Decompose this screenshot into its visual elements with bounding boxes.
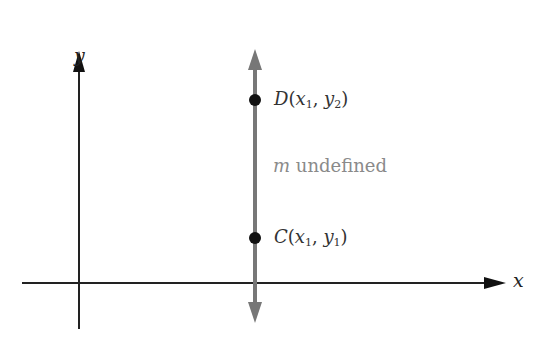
- point-c-label: C(x1, y1): [274, 228, 348, 248]
- x-axis: [22, 277, 506, 289]
- slope-text: undefined: [290, 155, 387, 176]
- point-c-x: x: [295, 226, 305, 247]
- separator: ,: [313, 88, 324, 109]
- separator: ,: [312, 226, 323, 247]
- y-axis: [73, 51, 85, 329]
- x-axis-arrow-icon: [484, 277, 506, 289]
- point-c-name: C: [274, 226, 288, 247]
- point-d-x: x: [295, 88, 305, 109]
- line-down-arrow-icon: [248, 302, 262, 323]
- line-up-arrow-icon: [248, 49, 262, 70]
- point-d-y: y: [324, 88, 334, 109]
- paren-close: ): [341, 88, 348, 109]
- slope-note: m undefined: [273, 157, 387, 175]
- vertical-line: [248, 49, 262, 323]
- point-c: [249, 232, 261, 244]
- point-c-y: y: [323, 226, 333, 247]
- point-d: [249, 94, 261, 106]
- point-d-x-sub: 1: [306, 98, 313, 111]
- point-c-x-sub: 1: [305, 236, 312, 249]
- paren-open: (: [288, 226, 295, 247]
- y-axis-label: y: [74, 46, 85, 65]
- point-d-name: D: [274, 88, 288, 109]
- x-axis-label: x: [513, 271, 524, 290]
- slope-var: m: [273, 155, 290, 176]
- paren-close: ): [341, 226, 348, 247]
- point-c-y-sub: 1: [334, 236, 341, 249]
- point-d-label: D(x1, y2): [274, 90, 348, 110]
